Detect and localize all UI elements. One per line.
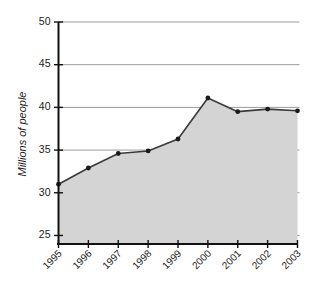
data-point-marker [205, 96, 210, 101]
y-tick-label: 25 [39, 228, 51, 240]
y-tick-label: 40 [39, 100, 51, 112]
y-axis-title-group: Millions of people [16, 92, 28, 177]
data-point-marker [176, 137, 181, 142]
data-point-marker [265, 107, 270, 112]
y-tick-label: 30 [39, 186, 51, 198]
data-point-marker [116, 151, 121, 156]
line-area-chart: 253035404550 199519961997199819992000200… [0, 0, 318, 292]
y-tick-label: 45 [39, 57, 51, 69]
data-point-marker [86, 166, 91, 171]
chart-container: 253035404550 199519961997199819992000200… [0, 0, 318, 292]
data-point-marker [295, 108, 300, 113]
y-tick-label: 50 [39, 15, 51, 27]
data-point-marker [235, 109, 240, 114]
y-axis-title: Millions of people [16, 92, 28, 177]
y-tick-label: 35 [39, 143, 51, 155]
data-point-marker [146, 149, 151, 154]
